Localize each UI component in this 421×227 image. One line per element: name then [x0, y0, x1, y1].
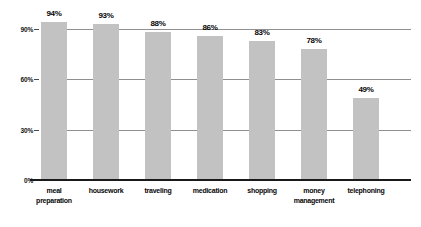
plot-area — [41, 12, 411, 180]
bar[interactable] — [93, 24, 119, 180]
bar-value-label: 78% — [294, 36, 334, 45]
bar[interactable] — [145, 32, 171, 180]
y-tick-label-60: 60% — [21, 76, 33, 83]
y-tick-mark-30 — [34, 130, 39, 131]
y-tick-label-30: 30% — [21, 126, 33, 133]
bar-value-label: 49% — [346, 85, 386, 94]
bar-value-label: 93% — [86, 11, 126, 20]
bar[interactable] — [249, 41, 275, 180]
x-category-label: telephoning — [335, 186, 397, 196]
y-tick-mark-90 — [34, 29, 39, 30]
bar[interactable] — [197, 36, 223, 180]
x-axis-baseline — [30, 179, 411, 181]
bar-value-label: 86% — [190, 23, 230, 32]
y-tick-mark-60 — [34, 79, 39, 80]
bar-chart: 0%30%60%90% 94%meal preparation93%housew… — [0, 0, 421, 227]
bar[interactable] — [353, 98, 379, 180]
bar-value-label: 94% — [34, 9, 74, 18]
bar[interactable] — [301, 49, 327, 180]
bar-value-label: 83% — [242, 28, 282, 37]
y-tick-label-90: 90% — [21, 25, 33, 32]
bar[interactable] — [41, 22, 67, 180]
bar-value-label: 88% — [138, 19, 178, 28]
